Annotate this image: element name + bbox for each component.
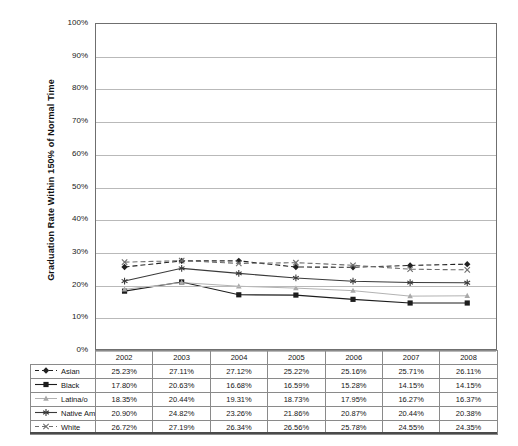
legend-marker-icon	[34, 394, 58, 403]
legend-label: Native American	[61, 409, 96, 418]
table-cell: 25.22%	[268, 365, 325, 379]
column-header-year: 2004	[210, 351, 267, 365]
table-cell: 20.44%	[153, 393, 210, 407]
y-tick-label: 30%	[44, 248, 88, 256]
table-cell: 20.44%	[382, 407, 439, 421]
legend-marker-icon	[34, 422, 58, 431]
series-lines	[96, 24, 496, 349]
table-cell: 15.28%	[325, 379, 382, 393]
table-corner-cell	[31, 351, 96, 365]
plot-area	[95, 23, 497, 350]
y-tick-label: 100%	[44, 19, 88, 27]
data-point-square	[350, 297, 355, 302]
legend-label: Latina/o	[61, 395, 88, 404]
table-cell: 20.87%	[325, 407, 382, 421]
table-cell: 17.80%	[96, 379, 153, 393]
gridline	[96, 286, 496, 287]
legend-label: White	[61, 423, 80, 432]
gridline	[96, 155, 496, 156]
data-point-diamond	[43, 368, 49, 374]
table-cell: 27.12%	[210, 365, 267, 379]
data-point-diamond	[464, 261, 470, 267]
table-cell: 17.95%	[325, 393, 382, 407]
gridline	[96, 220, 496, 221]
y-tick-label: 90%	[44, 52, 88, 60]
table-cell: 23.26%	[210, 407, 267, 421]
table-cell: 19.31%	[210, 393, 267, 407]
data-point-square	[293, 292, 298, 297]
table-header: 2002200320042005200620072008	[31, 351, 498, 365]
table-cell: 25.23%	[96, 365, 153, 379]
legend-entry-native-american: Native American	[31, 407, 96, 421]
data-table: 2002200320042005200620072008 Asian25.23%…	[30, 350, 498, 435]
legend-entry-latina-o: Latina/o	[31, 393, 96, 407]
y-tick-label: 40%	[44, 215, 88, 223]
table-cell: 24.82%	[153, 407, 210, 421]
chart-figure: Graduation Rate Within 150% of Normal Ti…	[0, 0, 518, 446]
table-cell: 20.63%	[153, 379, 210, 393]
column-header-year: 2003	[153, 351, 210, 365]
table-cell: 25.71%	[382, 365, 439, 379]
table-header-row: 2002200320042005200620072008	[31, 351, 498, 365]
gridline	[96, 89, 496, 90]
table-row: Latina/o18.35%20.44%19.31%18.73%17.95%16…	[31, 393, 498, 407]
y-tick-label: 50%	[44, 183, 88, 191]
y-tick-label: 60%	[44, 150, 88, 158]
data-point-square	[408, 300, 413, 305]
table-cell: 25.16%	[325, 365, 382, 379]
series-asian	[121, 258, 470, 271]
data-point-square	[43, 382, 48, 387]
data-point-x	[465, 267, 470, 272]
table-cell: 18.73%	[268, 393, 325, 407]
table-cell: 16.27%	[382, 393, 439, 407]
gridline	[96, 188, 496, 189]
legend-marker-icon	[34, 366, 58, 375]
data-point-square	[465, 300, 470, 305]
gridline	[96, 122, 496, 123]
table-row: Black17.80%20.63%16.68%16.59%15.28%14.15…	[31, 379, 498, 393]
table-cell: 20.90%	[96, 407, 153, 421]
column-header-year: 2008	[440, 351, 497, 365]
column-header-year: 2005	[268, 351, 325, 365]
y-tick-label: 80%	[44, 84, 88, 92]
table-cell: 14.15%	[440, 379, 497, 393]
legend-label: Asian	[61, 367, 80, 376]
table-row: Asian25.23%27.11%27.12%25.22%25.16%25.71…	[31, 365, 498, 379]
gridline	[96, 253, 496, 254]
column-header-year: 2002	[96, 351, 153, 365]
table-row: Native American20.90%24.82%23.26%21.86%2…	[31, 407, 498, 421]
legend-entry-asian: Asian	[31, 365, 96, 379]
legend-label: Black	[61, 381, 79, 390]
table-cell: 20.38%	[440, 407, 497, 421]
column-header-year: 2006	[325, 351, 382, 365]
data-point-square	[236, 292, 241, 297]
y-tick-label: 70%	[44, 117, 88, 125]
table-cell: 27.11%	[153, 365, 210, 379]
legend-marker-icon	[34, 380, 58, 389]
table-cell: 16.37%	[440, 393, 497, 407]
table-cell: 14.15%	[382, 379, 439, 393]
table-cell: 26.11%	[440, 365, 497, 379]
table-cell: 18.35%	[96, 393, 153, 407]
table-cell: 16.59%	[268, 379, 325, 393]
y-tick-label: 10%	[44, 313, 88, 321]
gridline	[96, 57, 496, 58]
y-tick-label: 20%	[44, 281, 88, 289]
table-body: Asian25.23%27.11%27.12%25.22%25.16%25.71…	[31, 365, 498, 435]
legend-marker-icon	[34, 408, 58, 417]
legend-entry-black: Black	[31, 379, 96, 393]
gridline	[96, 318, 496, 319]
table-cell: 21.86%	[268, 407, 325, 421]
column-header-year: 2007	[382, 351, 439, 365]
table-cell: 16.68%	[210, 379, 267, 393]
bottom-divider	[30, 432, 497, 434]
